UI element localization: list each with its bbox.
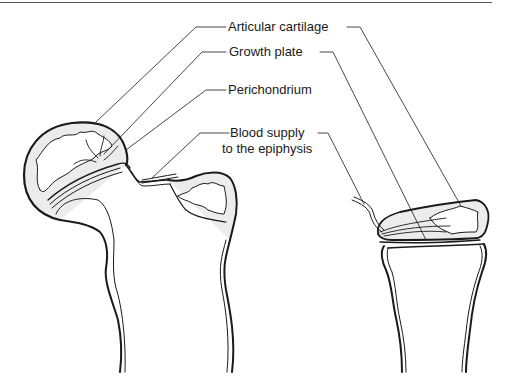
femur-left xyxy=(24,122,237,372)
label-blood-supply-line1: Blood supply xyxy=(230,125,304,140)
leader-articular-left xyxy=(96,27,226,122)
label-growth-plate: Growth plate xyxy=(229,44,303,59)
bone-right xyxy=(352,197,489,372)
femur-blood-vessel xyxy=(142,174,176,180)
leader-blood-left xyxy=(152,133,229,178)
leader-articular-right xyxy=(347,27,461,206)
leader-growth-left xyxy=(104,52,226,154)
leader-perichondrium xyxy=(126,90,226,150)
label-articular-cartilage: Articular cartilage xyxy=(228,19,328,34)
label-perichondrium: Perichondrium xyxy=(228,82,312,97)
label-blood-supply-line2: to the epiphysis xyxy=(222,141,312,156)
leader-blood-right xyxy=(318,133,364,204)
